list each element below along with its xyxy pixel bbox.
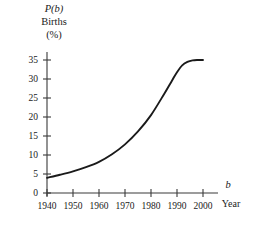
chart-figure: P(b) Births (%) 0 5 10 15 20 25 30 35 [0,0,256,225]
y-tick-label-20: 20 [29,112,39,122]
y-tick-label-10: 10 [29,150,39,160]
x-axis-title-group: b Year [222,179,241,209]
y-tick-label-30: 30 [29,74,39,84]
x-axis-name-label: Year [222,198,241,209]
chart-canvas: 0 5 10 15 20 25 30 35 1940 1950 1960 197… [0,0,256,225]
y-tick-label-0: 0 [33,188,38,198]
y-tick-label-25: 25 [29,93,39,103]
x-tick-label-1950: 1950 [64,201,83,211]
x-tick-label-1980: 1980 [142,201,161,211]
y-tick-label-35: 35 [29,55,39,65]
x-tick-label-1960: 1960 [90,201,109,211]
x-tick-label-1940: 1940 [38,201,57,211]
y-tick-label-15: 15 [29,131,39,141]
x-tick-label-2000: 2000 [194,201,213,211]
x-axis-tick-labels: 1940 1950 1960 1970 1980 1990 2000 [38,201,213,211]
x-axis-variable-label: b [225,179,230,190]
y-axis-tick-labels: 0 5 10 15 20 25 30 35 [29,55,39,198]
x-tick-label-1970: 1970 [116,201,135,211]
y-tick-label-5: 5 [33,169,38,179]
axes-group [47,52,218,196]
births-curve [47,60,203,178]
x-tick-label-1990: 1990 [168,201,187,211]
